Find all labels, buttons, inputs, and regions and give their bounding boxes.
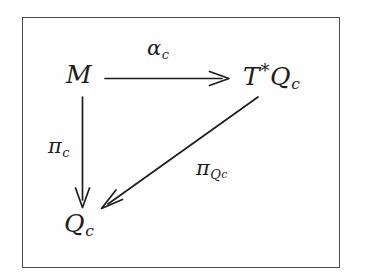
edge-label-pi-qc-sub: Q — [210, 167, 221, 182]
node-qc-sub: c — [85, 222, 94, 240]
edge-label-pi-c-base: π — [48, 134, 62, 158]
edge-label-pi-qc: πQc — [196, 158, 227, 181]
diagram-node-t-star-qc: T*Qc — [243, 62, 300, 92]
diagram-node-qc: Qc — [64, 211, 94, 240]
diagram-canvas: M T*Qc Qc αc πc πQc — [0, 0, 366, 278]
node-tqc-star: * — [260, 60, 269, 81]
node-tqc-mid: Q — [270, 62, 291, 91]
edge-label-alpha-c-sub: c — [162, 47, 169, 62]
edge-label-pi-qc-base: π — [196, 156, 210, 180]
node-qc-base: Q — [64, 209, 85, 238]
edge-label-pi-c: πc — [48, 136, 70, 159]
edge-label-pi-qc-subsub: c — [221, 168, 227, 181]
edge-label-pi-c-sub: c — [62, 145, 69, 160]
node-m-base: M — [66, 60, 92, 89]
diagram-node-m: M — [66, 62, 92, 87]
edge-label-alpha-c: αc — [147, 38, 169, 61]
edge-label-alpha-c-base: α — [147, 36, 161, 60]
node-tqc-base: T — [243, 62, 260, 91]
node-tqc-sub: c — [291, 75, 300, 93]
